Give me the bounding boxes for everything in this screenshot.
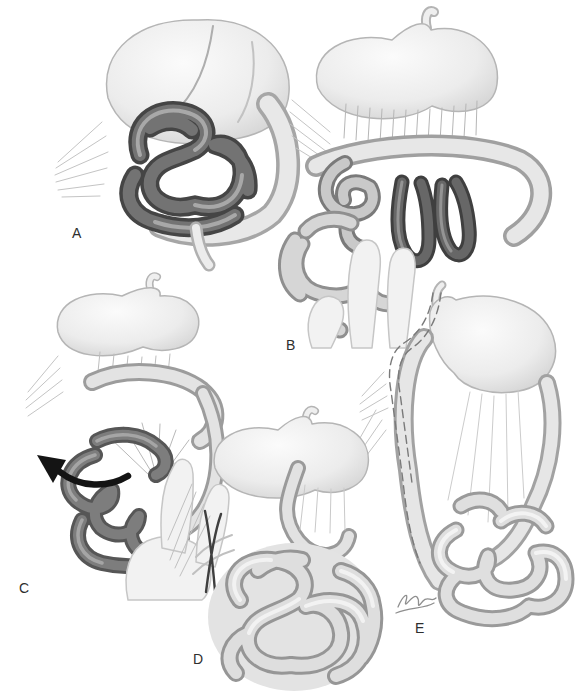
panel-label-a: A bbox=[72, 226, 82, 240]
panel-label-b: B bbox=[286, 338, 296, 352]
panel-label-d: D bbox=[193, 652, 204, 666]
illustration-plate: A B C D E bbox=[0, 0, 576, 691]
panel-label-e: E bbox=[415, 621, 425, 635]
mesentery-fan-lines bbox=[55, 122, 108, 197]
stomach bbox=[57, 288, 198, 356]
thumb bbox=[308, 296, 343, 348]
stomach bbox=[316, 24, 497, 119]
index-finger bbox=[348, 240, 380, 348]
panel-label-c: C bbox=[19, 581, 30, 595]
panel-c-illustration bbox=[26, 276, 229, 600]
retraction-fan-lines bbox=[26, 356, 63, 416]
stomach bbox=[430, 296, 556, 392]
middle-finger bbox=[388, 248, 416, 348]
panel-a-illustration bbox=[55, 20, 289, 265]
artist-signature bbox=[396, 595, 436, 613]
